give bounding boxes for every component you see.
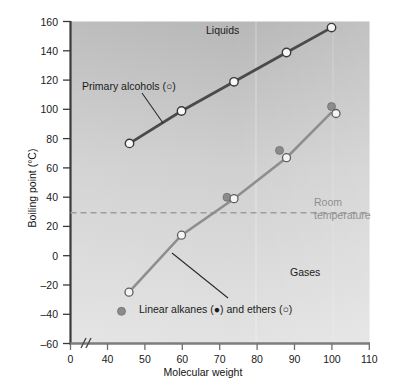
y-tick-label-minus60: –60 (14, 338, 58, 349)
room-temperature-label-line2: temperature (314, 209, 371, 222)
alcohol-point (282, 48, 290, 56)
ether-point (230, 195, 238, 203)
alcohol-point (327, 23, 335, 31)
plot-area-sheen (71, 22, 370, 344)
x-tick-label-40: 40 (102, 354, 114, 365)
x-tick-label-60: 60 (176, 354, 188, 365)
gases-region-label: Gases (290, 266, 320, 279)
room-temperature-label: Room temperature (314, 196, 371, 222)
x-tick-label-100: 100 (323, 354, 341, 365)
y-tick-label-minus20: –20 (14, 280, 58, 291)
y-tick-label-160: 160 (18, 16, 58, 27)
boiling-point-vs-molecular-weight-chart: 160 140 120 100 80 60 40 20 0 –20 –40 –6… (0, 0, 406, 392)
x-tick-label-90: 90 (289, 354, 301, 365)
x-tick-label-80: 80 (251, 354, 263, 365)
y-tick-label-140: 140 (18, 46, 58, 57)
x-tick-label-110: 110 (361, 354, 378, 365)
x-tick-label-50: 50 (139, 354, 151, 365)
x-tick-label-70: 70 (214, 354, 226, 365)
y-axis-ticks (63, 22, 71, 344)
y-axis-title: Boiling point (°C) (26, 128, 38, 248)
legend-primary-alcohols: Primary alcohols (○) (82, 80, 176, 93)
legend-alkanes-and-ethers: Linear alkanes (●) and ethers (○) (139, 303, 292, 316)
x-tick-label-0: 0 (68, 354, 74, 365)
y-tick-label-20: 20 (18, 221, 58, 232)
y-tick-label-40: 40 (18, 192, 58, 203)
room-temperature-label-line1: Room (314, 196, 371, 209)
x-axis-title: Molecular weight (0, 366, 406, 378)
y-tick-label-120: 120 (18, 75, 58, 86)
liquids-region-label: Liquids (206, 24, 239, 37)
y-tick-label-60: 60 (18, 163, 58, 174)
ether-point (283, 154, 291, 162)
alkane-point (276, 146, 284, 154)
alcohol-point (230, 78, 238, 86)
ether-point (125, 288, 133, 296)
y-tick-label-0: 0 (18, 250, 58, 261)
alcohol-point (177, 107, 185, 115)
y-tick-label-minus40: –40 (14, 309, 58, 320)
y-tick-label-80: 80 (18, 133, 58, 144)
ether-point (332, 110, 340, 118)
alkane-point (118, 307, 126, 315)
y-tick-label-100: 100 (18, 104, 58, 115)
alcohol-point (125, 139, 133, 147)
ether-point (178, 231, 186, 239)
